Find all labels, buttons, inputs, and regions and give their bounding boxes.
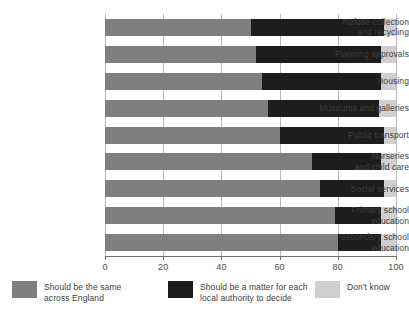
bar-segment-should-be-the-same[interactable] (105, 180, 320, 197)
legend-swatch-local-authority (168, 281, 193, 298)
bar-segment-should-be-the-same[interactable] (105, 127, 280, 144)
x-tick-label-80: 80 (333, 262, 343, 272)
legend-label-line: across England (44, 293, 121, 304)
legend-label-line: local authority to decide (200, 293, 308, 304)
category-label-line: Nurseries (309, 151, 409, 162)
category-label-line: education (309, 243, 409, 254)
category-label: Refuse collectionand recycling (309, 17, 409, 38)
category-label: Planning approvals (309, 49, 409, 60)
category-label-line: education (309, 216, 409, 227)
bar-segment-should-be-the-same[interactable] (105, 234, 338, 251)
x-tick-20 (163, 256, 164, 260)
category-label-line: Social services (309, 184, 409, 195)
category-label-line: Planning approvals (309, 49, 409, 60)
bar-segment-should-be-the-same[interactable] (105, 19, 251, 36)
legend-item-dont-know[interactable]: Don't know (315, 281, 390, 298)
category-label-line: and child care (309, 162, 409, 173)
bar-segment-should-be-the-same[interactable] (105, 207, 335, 224)
category-label-line: Housing (309, 76, 409, 87)
legend-item-local-authority[interactable]: Should be a matter for eachlocal authori… (168, 281, 308, 303)
category-label: Social services (309, 184, 409, 195)
legend-swatch-dont-know (315, 281, 340, 298)
x-tick-80 (338, 256, 339, 260)
bar-segment-should-be-the-same[interactable] (105, 153, 312, 170)
category-label-line: Museums and galleries (309, 103, 409, 114)
legend-label-line: Don't know (347, 282, 390, 293)
category-label: Nurseriesand child care (309, 151, 409, 172)
legend-label-line: Should be the same (44, 282, 121, 293)
x-axis-line (105, 256, 397, 257)
category-label-line: and recycling (309, 27, 409, 38)
clipped-title-remnant (0, 0, 409, 1)
category-label-line: Refuse collection (309, 17, 409, 28)
category-label-line: Secondary school (309, 232, 409, 243)
x-tick-100 (396, 256, 397, 260)
category-label-line: Public transport (309, 130, 409, 141)
legend-item-should-be-the-same[interactable]: Should be the sameacross England (12, 281, 121, 303)
legend-swatch-should-be-the-same (12, 281, 37, 298)
category-label: Public transport (309, 130, 409, 141)
x-tick-label-20: 20 (158, 262, 168, 272)
category-label: Museums and galleries (309, 103, 409, 114)
bar-segment-should-be-the-same[interactable] (105, 73, 262, 90)
stacked-bar-chart: Should be the sameacross England Should … (0, 0, 409, 317)
chart-legend: Should be the sameacross England Should … (0, 281, 409, 317)
category-label-line: Primary school (309, 205, 409, 216)
category-label: Primary schooleducation (309, 205, 409, 226)
x-tick-label-60: 60 (274, 262, 284, 272)
legend-label-line: Should be a matter for each (200, 282, 308, 293)
legend-label-local-authority: Should be a matter for eachlocal authori… (200, 281, 308, 303)
bar-segment-should-be-the-same[interactable] (105, 46, 256, 63)
legend-label-dont-know: Don't know (347, 281, 390, 293)
bar-segment-should-be-the-same[interactable] (105, 100, 268, 117)
category-label: Housing (309, 76, 409, 87)
x-tick-0 (105, 256, 106, 260)
legend-label-should-be-the-same: Should be the sameacross England (44, 281, 121, 303)
x-tick-40 (221, 256, 222, 260)
x-tick-label-40: 40 (216, 262, 226, 272)
x-tick-label-100: 100 (388, 262, 404, 272)
x-tick-60 (280, 256, 281, 260)
category-label: Secondary schooleducation (309, 232, 409, 253)
x-tick-label-0: 0 (102, 262, 107, 272)
